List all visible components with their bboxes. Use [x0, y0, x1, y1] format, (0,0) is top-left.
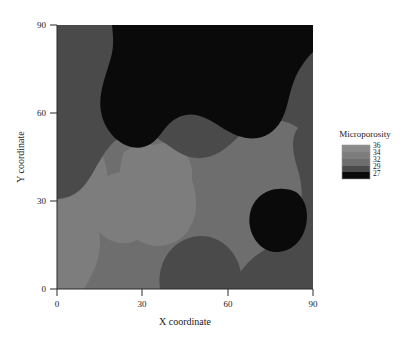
x-axis-label: X coordinate	[159, 316, 211, 327]
legend-swatch-34	[342, 152, 370, 159]
legend-swatch-36	[342, 145, 370, 152]
y-tick-label-0: 0	[42, 284, 47, 294]
legend-swatch-27	[342, 172, 370, 179]
x-tick-label-0: 0	[55, 299, 60, 309]
contour-map-figure: 0 30 60 90 0 30 60 90 X coordinate Y coo…	[0, 0, 402, 341]
legend-colorbar	[342, 145, 370, 179]
y-axis-label: Y coordinate	[15, 131, 26, 183]
x-tick-label-60: 60	[224, 299, 234, 309]
y-tick-label-60: 60	[37, 108, 47, 118]
legend-swatch-29	[342, 166, 370, 172]
x-tick-label-30: 30	[138, 299, 148, 309]
plot-area	[57, 25, 313, 289]
legend-swatch-32	[342, 159, 370, 166]
y-tick-label-90: 90	[37, 20, 47, 30]
legend-title: Microporosity	[339, 129, 391, 139]
legend-label-27: 27	[373, 169, 381, 178]
y-tick-label-30: 30	[37, 196, 47, 206]
x-tick-label-90: 90	[309, 299, 319, 309]
